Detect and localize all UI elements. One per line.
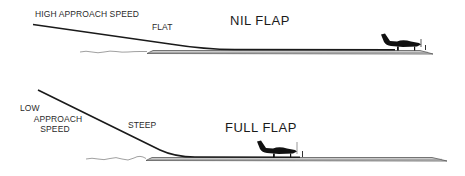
ground-line (80, 51, 147, 53)
full-flap-title: FULL FLAP (225, 120, 297, 135)
low-approach-speed-label: LOW APPROACH SPEED (18, 103, 84, 135)
low-approach-speed-line-1: LOW (18, 103, 84, 114)
flat-slope-label: FLAT (152, 22, 173, 32)
ground-line (86, 156, 146, 160)
steep-slope-label: STEEP (128, 120, 156, 130)
approach-path-flat (33, 25, 395, 50)
high-approach-speed-label: HIGH APPROACH SPEED (35, 9, 139, 19)
flap-approach-diagram: HIGH APPROACH SPEED FLAT NIL FLAP LOW AP… (0, 0, 465, 176)
airplane-icon (381, 34, 426, 51)
nil-flap-title: NIL FLAP (230, 13, 290, 28)
nil-flap-panel (33, 25, 433, 55)
low-approach-speed-line-2: APPROACH (18, 114, 84, 125)
airplane-icon (257, 141, 303, 158)
low-approach-speed-line-3: SPEED (18, 124, 84, 135)
